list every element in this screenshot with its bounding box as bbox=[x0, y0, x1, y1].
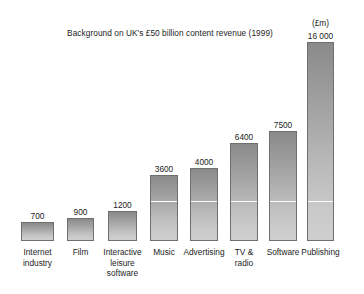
bar-category-label-line: software bbox=[94, 268, 151, 279]
bar bbox=[21, 222, 54, 241]
bar-category-label: Publishing bbox=[293, 247, 348, 258]
bar-value-label: 4000 bbox=[176, 157, 232, 167]
bar-value-label: 16 000 bbox=[293, 31, 348, 41]
bar-chart: Background on UK's £50 billion content r… bbox=[0, 0, 364, 294]
bar-category-label-line: industry bbox=[7, 258, 68, 269]
bar bbox=[108, 211, 137, 241]
bar bbox=[307, 42, 334, 241]
bar-value-label: 1200 bbox=[94, 200, 151, 210]
bar-value-label: 7500 bbox=[255, 120, 311, 130]
bar-fold-line bbox=[270, 201, 296, 202]
bar-category-label-line: radio bbox=[216, 258, 272, 269]
bar bbox=[269, 131, 297, 241]
bar bbox=[230, 143, 258, 241]
bar-fold-line bbox=[308, 201, 333, 202]
bar bbox=[150, 175, 178, 241]
plot-area: 700Internetindustry900Film1200Interactiv… bbox=[0, 0, 364, 294]
bar-category-label-line: Publishing bbox=[293, 247, 348, 258]
bar bbox=[190, 168, 218, 241]
bar-fold-line bbox=[191, 201, 217, 202]
bar-fold-line bbox=[151, 201, 177, 202]
bar bbox=[67, 218, 94, 241]
bar-value-label: 6400 bbox=[216, 132, 272, 142]
bar-category-label-line: leisure bbox=[94, 258, 151, 269]
bar-fold-line bbox=[231, 201, 257, 202]
